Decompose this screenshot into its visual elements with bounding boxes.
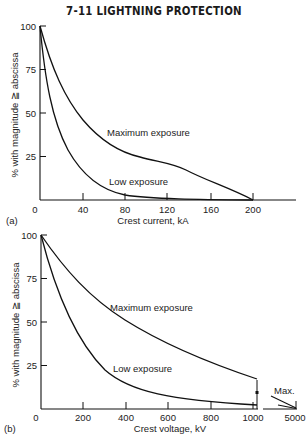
- x-tick-label: 0: [32, 204, 37, 215]
- y-tick-label: 100: [21, 230, 37, 241]
- annotation-max-break: Max.: [274, 385, 295, 396]
- break-marker: [256, 391, 259, 394]
- panel-label: (a): [6, 215, 18, 226]
- y-tick-label: 75: [26, 273, 37, 284]
- panel-label: (b): [4, 423, 16, 434]
- x-axis-label: Crest voltage, kV: [134, 423, 207, 434]
- series-low-exposure-a: [40, 26, 253, 200]
- y-tick-label: 25: [26, 360, 37, 371]
- x-tick-label: 160: [203, 204, 219, 215]
- x-tick-label: 600: [160, 412, 176, 423]
- x-tick-label: 80: [120, 204, 131, 215]
- x-tick-label: 1000: [242, 412, 263, 423]
- series-low-exposure-b: [41, 235, 257, 405]
- y-axis-label: % with magnitude ≧ abscissa: [10, 262, 21, 388]
- x-tick-label: 40: [78, 204, 89, 215]
- y-tick-label: 50: [26, 317, 37, 328]
- y-tick-label: 75: [25, 64, 36, 75]
- x-tick-label: 800: [203, 412, 219, 423]
- y-tick-label: 100: [20, 21, 36, 32]
- x-tick-label: 400: [118, 412, 134, 423]
- chart-b-labels: 100 75 50 25 0 200 400 600 800 1000 5000…: [4, 230, 306, 435]
- y-axis-label: % with magnitude ≧ abscissa: [9, 52, 20, 178]
- chart-b: [41, 235, 297, 409]
- x-tick-label: 5000: [284, 412, 305, 423]
- chart-a: [40, 26, 296, 200]
- annotation-maximum-exposure: Maximum exposure: [107, 127, 190, 138]
- chart-a-labels: 100 75 50 25 0 40 80 120 160 200 Crest c…: [6, 21, 261, 227]
- annotation-low-exposure: Low exposure: [113, 363, 172, 374]
- annotation-maximum-exposure: Maximum exposure: [110, 302, 193, 313]
- x-tick-label: 120: [159, 204, 175, 215]
- x-tick-label: 200: [75, 412, 91, 423]
- x-axis-label: Crest current, kA: [117, 215, 189, 226]
- y-tick-label: 25: [25, 151, 36, 162]
- series-max-exposure-a: [40, 26, 253, 200]
- figure: 100 75 50 25 0 40 80 120 160 200 Crest c…: [0, 0, 308, 435]
- y-tick-label: 50: [25, 108, 36, 119]
- x-tick-label: 200: [245, 204, 261, 215]
- x-tick-label: 0: [33, 412, 38, 423]
- annotation-low-exposure: Low exposure: [109, 176, 168, 187]
